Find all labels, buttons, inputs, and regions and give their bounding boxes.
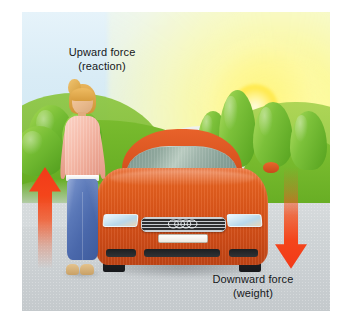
number-plate bbox=[158, 234, 208, 243]
bumper-vent-right bbox=[229, 249, 258, 257]
downward-force-arrow bbox=[274, 167, 308, 269]
car-body bbox=[96, 168, 268, 265]
shoe-left bbox=[66, 264, 79, 275]
shirt bbox=[65, 116, 100, 177]
hair-fringe bbox=[71, 88, 94, 101]
bumper-vent-left bbox=[106, 249, 135, 257]
hood-highlight bbox=[110, 170, 255, 185]
downward-force-label: Downward force (weight) bbox=[176, 272, 330, 300]
person bbox=[56, 84, 108, 275]
downward-force-label-line1: Downward force bbox=[213, 273, 294, 285]
front-bumper bbox=[96, 244, 268, 259]
jeans-seam bbox=[82, 192, 83, 260]
force-diagram-illustration: Upward force (reaction) Downward force (… bbox=[22, 12, 330, 311]
headlight-right bbox=[226, 214, 262, 227]
downward-force-label-line2: (weight) bbox=[176, 286, 330, 300]
figure-canvas: Upward force (reaction) Downward force (… bbox=[0, 0, 347, 326]
jeans bbox=[67, 179, 98, 259]
upward-force-label-line2: (reaction) bbox=[37, 59, 166, 73]
shoe-right bbox=[80, 264, 93, 275]
upward-force-label-line1: Upward force bbox=[69, 46, 136, 58]
shirt-texture bbox=[65, 116, 100, 177]
upward-force-label: Upward force (reaction) bbox=[37, 45, 166, 73]
upward-force-arrow bbox=[28, 167, 62, 269]
car bbox=[96, 129, 268, 276]
radiator-grille bbox=[141, 217, 226, 233]
audi-rings-icon bbox=[160, 219, 206, 230]
bumper-vent-centre bbox=[144, 249, 220, 257]
